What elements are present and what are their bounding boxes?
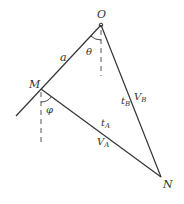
label-a: a	[60, 51, 67, 64]
label-tA: tA	[101, 117, 110, 130]
label-VB: VB	[134, 91, 146, 104]
geometry-diagram: O M N a θ φ tB VB tA VA	[0, 0, 184, 204]
label-M: M	[28, 78, 41, 91]
line-ON	[101, 25, 161, 177]
label-N: N	[162, 178, 173, 191]
theta-arc	[91, 36, 101, 40]
label-phi: φ	[46, 104, 53, 115]
label-theta: θ	[86, 46, 92, 57]
label-O: O	[97, 8, 106, 21]
phi-arc	[41, 97, 52, 102]
